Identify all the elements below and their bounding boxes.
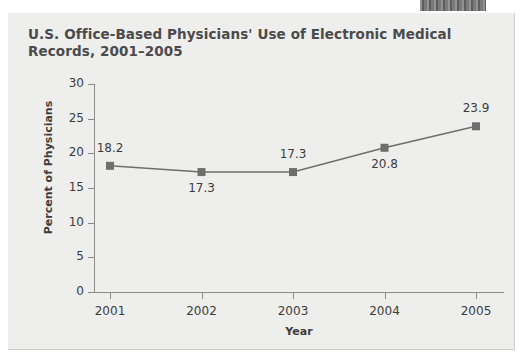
series-line-chart: [8, 13, 514, 349]
point-label-2004: 20.8: [371, 157, 398, 171]
point-label-2002: 17.3: [188, 181, 215, 195]
chart-figure-panel: U.S. Office-Based Physicians' Use of Ele…: [8, 13, 515, 350]
marker-2003: [289, 168, 297, 176]
point-label-2003: 17.3: [280, 147, 307, 161]
header-band-texture: [420, 0, 486, 11]
point-label-2001: 18.2: [97, 141, 124, 155]
plot-area: 051015202530 20012002200320042005 18.217…: [8, 13, 514, 349]
marker-2002: [198, 168, 206, 176]
y-axis-title: Percent of Physicians: [42, 98, 55, 238]
point-label-2005: 23.9: [463, 101, 490, 115]
marker-2005: [472, 122, 480, 130]
marker-2004: [381, 144, 389, 152]
x-axis-title: Year: [94, 325, 504, 338]
marker-2001: [106, 162, 114, 170]
cropped-header-band: [420, 0, 486, 11]
